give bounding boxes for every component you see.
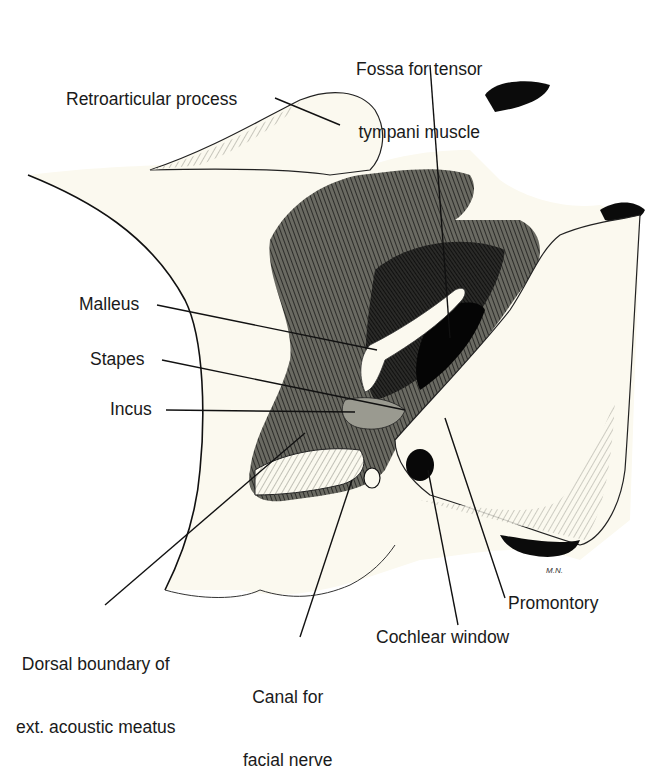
label-dorsal-boundary: Dorsal boundary of ext. acoustic meatus bbox=[16, 612, 176, 759]
label-fossa-line2: tympani muscle bbox=[356, 122, 482, 143]
label-cochlear-window: Cochlear window bbox=[376, 627, 509, 648]
label-incus: Incus bbox=[110, 399, 152, 420]
label-canal-line2: facial nerve bbox=[243, 750, 333, 770]
label-dorsal-line2: ext. acoustic meatus bbox=[16, 717, 176, 738]
label-canal-facial-nerve: Canal for facial nerve bbox=[243, 645, 333, 770]
label-canal-line1: Canal for bbox=[243, 687, 333, 708]
facial-canal-shape bbox=[364, 468, 380, 488]
artist-signature: M.N. bbox=[546, 566, 563, 575]
label-retroarticular-process: Retroarticular process bbox=[66, 89, 237, 110]
label-fossa-tensor-tympani: Fossa for tensor tympani muscle bbox=[356, 17, 482, 164]
label-dorsal-line1: Dorsal boundary of bbox=[16, 654, 176, 675]
label-fossa-line1: Fossa for tensor bbox=[356, 59, 482, 80]
label-promontory: Promontory bbox=[508, 593, 598, 614]
label-stapes: Stapes bbox=[90, 349, 144, 370]
dark-notch-top bbox=[485, 81, 550, 112]
label-malleus: Malleus bbox=[79, 294, 139, 315]
